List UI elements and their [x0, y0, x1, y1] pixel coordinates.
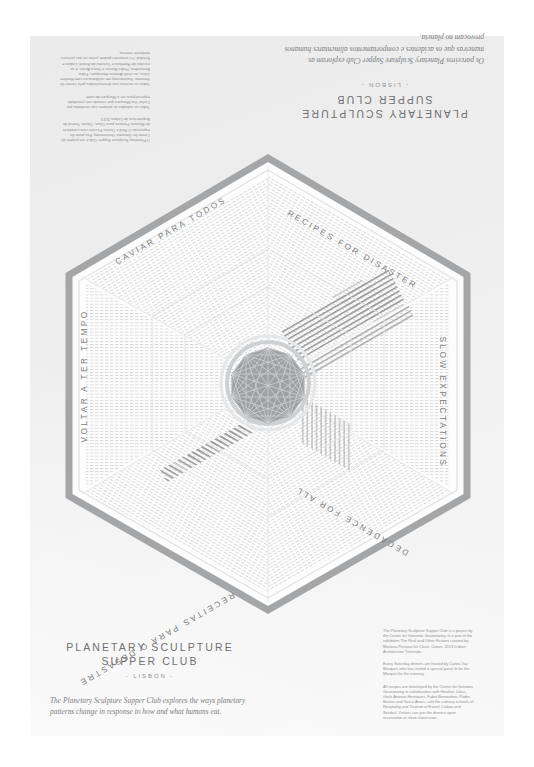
masthead-en-title-line2: SUPPER CLUB [101, 655, 198, 667]
poster-canvas: CAVIAR PARA TODOS RECIPES FOR DISASTER S… [0, 0, 534, 767]
credits-pt: O Planetary Sculpture Supper Club e um p… [58, 44, 150, 143]
masthead-pt-title-line1: PLANETARY SCULPTURE [300, 108, 468, 120]
masthead-en: PLANETARY SCULPTURE SUPPER CLUB - LISBON… [50, 640, 250, 718]
credits-en-para-3: All recipes are developed by the Center … [383, 684, 475, 720]
sector-label-slow: SLOW EXPECTATIONS [438, 337, 447, 468]
center-medallion [221, 336, 315, 430]
masthead-en-lede: The Planetary Sculpture Supper Club expl… [50, 695, 250, 718]
masthead-en-title: PLANETARY SCULPTURE SUPPER CLUB [50, 640, 250, 668]
sector-label-voltar: VOLTAR A TER TEMPO [80, 309, 89, 442]
credits-pt-para-3: Todas as receitas sao desenvolvidas pelo… [58, 51, 150, 87]
masthead-pt-city: - LISBON - [284, 82, 484, 88]
masthead-en-title-line1: PLANETARY SCULPTURE [66, 641, 234, 653]
credits-en: The Planetary Sculpture Supper Club is a… [383, 628, 475, 727]
masthead-en-city: - LISBON - [50, 673, 250, 679]
credits-en-para-1: The Planetary Sculpture Supper Club is a… [383, 628, 475, 654]
masthead-pt-title-line2: SUPPER CLUB [335, 94, 432, 106]
credits-pt-para-2: Todos os sabados os jantares sao recebid… [58, 94, 150, 110]
masthead-pt-title: PLANETARY SCULPTURE SUPPER CLUB [284, 93, 484, 121]
credits-pt-para-1: O Planetary Sculpture Supper Club e um p… [58, 117, 150, 143]
credits-en-para-2: Every Saturday dinners are hosted by Car… [383, 661, 475, 677]
masthead-pt: PLANETARY SCULPTURE SUPPER CLUB - LISBON… [284, 32, 484, 121]
masthead-pt-lede: Os parceiros Planetary Sculpture Supper … [284, 32, 484, 66]
